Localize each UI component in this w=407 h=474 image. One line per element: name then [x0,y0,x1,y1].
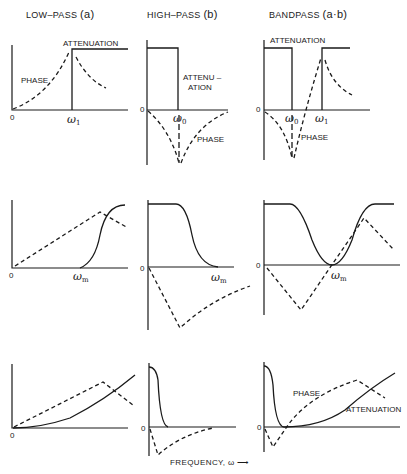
attenuation-label: ATTENUATION [270,36,325,45]
attenuation-label: ATTENUATION [63,39,118,48]
phase-label: PHASE [197,135,224,144]
omega-m-label: ωm [211,271,227,285]
omega-0-label: ω0 [173,112,186,126]
attenuation-curve [13,375,135,428]
origin-label: 0 [10,113,15,122]
origin-label: 0 [141,424,146,433]
attenuation-curve [148,204,218,267]
panel-highpass-gradual: 0 ωm [140,200,250,330]
phase-curve [149,268,250,328]
phase-label: PHASE [293,389,320,398]
attenuation-curve [80,205,125,268]
attenuation-label-line1: ATTENU – [183,73,222,82]
origin-label: 0 [140,264,145,273]
attenuation-low [264,48,292,110]
origin-label: 0 [140,105,145,114]
filter-characteristics-diagram: ATTENUATION PHASE 0 ω1 ATTENU – ATION PH… [0,0,407,474]
panel-bandpass-very-gradual: PHASE ATTENUATION 0 [257,362,401,452]
attenuation-label: ATTENUATION [346,405,401,414]
omega-1-label: ω1 [315,112,328,126]
panel-highpass-very-gradual: 0 [141,363,236,456]
axes [147,40,228,165]
attenuation-label-line2: ATION [188,83,212,92]
phase-curve-decay [76,57,106,88]
attenuation-curve [264,204,394,265]
origin-label: 0 [9,271,14,280]
origin-label: 0 [256,105,261,114]
origin-label: 0 [257,423,262,432]
axes [149,363,236,456]
phase-curve-mid [294,58,321,158]
axes [148,200,234,330]
origin-label: 0 [256,261,261,270]
phase-label: PHASE [301,133,328,142]
panel-lowpass-gradual: 0 ωm [9,200,128,284]
omega-m-label: ωm [73,270,89,284]
panel-bandpass-ideal: ATTENUATION PHASE 0 ω0 ω1 [256,36,370,160]
attenuation-curve [72,49,128,110]
omega-1-label: ω1 [67,113,80,127]
panel-bandpass-gradual: 0 ωm [256,200,400,315]
axes [264,200,400,315]
attenuation-curve [264,366,395,427]
panel-highpass-ideal: ATTENU – ATION PHASE 0 ω0 [140,40,228,165]
attenuation-high [322,48,350,110]
phase-curve [14,382,133,427]
origin-label: 0 [10,431,15,440]
attenuation-curve [149,367,168,427]
axes [264,40,370,160]
panel-lowpass-ideal: ATTENUATION PHASE 0 ω1 [10,39,128,127]
phase-curve [150,428,213,455]
phase-curve-right [325,60,352,95]
x-axis-label: FREQUENCY, ω ⟶ [170,458,249,467]
omega-m-label: ωm [331,269,347,283]
phase-label: PHASE [21,76,48,85]
panel-lowpass-very-gradual: 0 [10,364,135,440]
phase-curve [267,218,394,310]
attenuation-curve [147,48,178,110]
phase-curve [15,212,128,266]
omega-0-label: ω0 [285,112,298,126]
